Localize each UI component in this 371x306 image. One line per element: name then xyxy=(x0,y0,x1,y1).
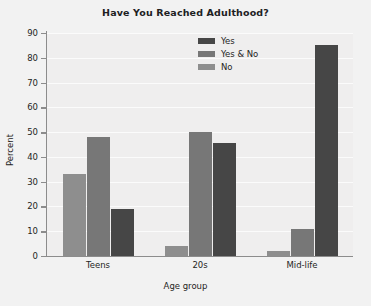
x-tick-label: 20s xyxy=(155,260,245,270)
gridline xyxy=(47,107,353,108)
y-tick-mark xyxy=(41,33,46,34)
legend-label: No xyxy=(221,62,233,72)
y-tick-label: 20 xyxy=(0,201,38,211)
y-tick-mark xyxy=(41,132,46,133)
y-tick-mark xyxy=(41,231,46,232)
legend-label: Yes xyxy=(221,36,235,46)
y-tick-label: 30 xyxy=(0,177,38,187)
y-tick-mark xyxy=(41,182,46,183)
y-tick-mark xyxy=(41,206,46,207)
y-tick-label: 0 xyxy=(0,251,38,261)
y-tick-mark xyxy=(41,83,46,84)
legend: YesYes & NoNo xyxy=(198,34,258,73)
y-tick-mark xyxy=(41,107,46,108)
y-tick-mark xyxy=(41,256,46,257)
x-axis-title: Age group xyxy=(0,281,371,291)
bar xyxy=(213,143,236,256)
bar-chart: Have You Reached Adulthood? Percent 0102… xyxy=(0,0,371,306)
x-tick-label: Teens xyxy=(53,260,143,270)
gridline xyxy=(47,83,353,84)
bar xyxy=(291,229,314,256)
bar xyxy=(165,246,188,256)
bar xyxy=(315,45,338,256)
y-tick-mark xyxy=(41,58,46,59)
bar xyxy=(267,251,290,256)
y-tick-label: 80 xyxy=(0,53,38,63)
legend-item: Yes & No xyxy=(198,47,258,60)
y-tick-label: 50 xyxy=(0,127,38,137)
y-tick-label: 40 xyxy=(0,152,38,162)
chart-title: Have You Reached Adulthood? xyxy=(0,7,371,18)
y-tick-label: 60 xyxy=(0,102,38,112)
bar xyxy=(87,137,110,256)
bar xyxy=(189,132,212,256)
y-tick-label: 10 xyxy=(0,226,38,236)
legend-swatch xyxy=(198,64,215,70)
legend-item: No xyxy=(198,60,258,73)
legend-swatch xyxy=(198,51,215,57)
x-tick-label: Mid-life xyxy=(257,260,347,270)
legend-swatch xyxy=(198,38,215,44)
bar xyxy=(111,209,134,256)
legend-item: Yes xyxy=(198,34,258,47)
y-tick-label: 70 xyxy=(0,78,38,88)
y-tick-mark xyxy=(41,157,46,158)
bar xyxy=(63,174,86,256)
y-tick-label: 90 xyxy=(0,28,38,38)
y-axis-line xyxy=(46,31,47,257)
legend-label: Yes & No xyxy=(221,49,258,59)
